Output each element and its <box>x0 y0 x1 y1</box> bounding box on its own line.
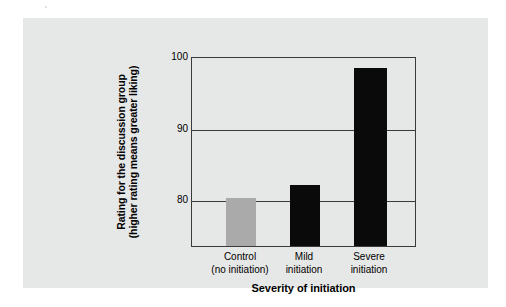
x-category-label-severe-line-2: initiation <box>323 263 415 276</box>
y-axis-title: Rating for the discussion group (higher … <box>109 57 145 247</box>
y-tick-label-100: 100 <box>160 52 188 62</box>
y-axis-title-line-2: (higher rating means greater liking) <box>127 66 139 239</box>
chart-figure-panel: Rating for the discussion group (higher … <box>23 18 488 288</box>
x-category-label-severe: Severe initiation <box>323 250 415 276</box>
bar-severe-initiation <box>354 68 387 246</box>
y-axis-title-line-1: Rating for the discussion group <box>115 74 127 230</box>
x-axis-title: Severity of initiation <box>191 282 416 294</box>
x-category-label-severe-line-1: Severe <box>323 250 415 263</box>
bar-control-no-initiation <box>226 198 256 246</box>
plot-area <box>191 57 416 247</box>
bar-mild-initiation <box>290 185 320 246</box>
y-tick-label-80: 80 <box>160 195 188 205</box>
scan-artifact-speck <box>45 6 47 8</box>
y-tick-label-90: 90 <box>160 124 188 134</box>
